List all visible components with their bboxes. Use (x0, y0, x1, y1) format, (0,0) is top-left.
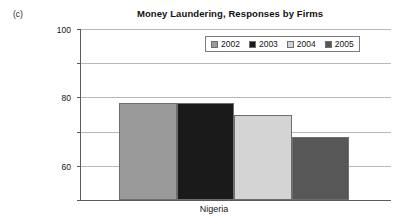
chart-title: Money Laundering, Responses by Firms (60, 8, 400, 19)
bar-2002 (119, 103, 177, 200)
legend-swatch-icon (325, 41, 332, 48)
legend-swatch-icon (211, 41, 218, 48)
legend-swatch-icon (249, 41, 256, 48)
y-axis-tick-label: 80 (62, 93, 71, 103)
legend-label: 2003 (259, 39, 278, 49)
y-axis-tick: 40 (77, 132, 81, 133)
legend: 2002200320042005 (205, 36, 360, 52)
bar-2003 (177, 103, 235, 200)
bar-2004 (234, 115, 292, 201)
y-axis-tick: 80 (77, 63, 81, 64)
panel-letter: (c) (13, 9, 23, 19)
y-axis-tick-label: 60 (62, 162, 71, 172)
legend-label: 2002 (221, 39, 240, 49)
y-axis-tick: 100 (77, 29, 81, 30)
legend-item-2002[interactable]: 2002 (211, 39, 240, 49)
y-axis-tick: 0 (77, 200, 81, 201)
legend-item-2004[interactable]: 2004 (287, 39, 316, 49)
bar-2005 (292, 137, 350, 200)
bar-group-nigeria (119, 29, 349, 200)
legend-swatch-icon (287, 41, 294, 48)
x-axis-tick-labels: Nigeria (80, 204, 390, 214)
y-axis-tick-label: 100 (57, 25, 71, 35)
legend-item-2003[interactable]: 2003 (249, 39, 278, 49)
plot-area: 020406080100 (80, 29, 391, 201)
chart-figure: (c) Money Laundering, Responses by Firms… (0, 0, 402, 224)
y-axis-tick: 60 (77, 97, 81, 98)
x-axis-tick-label-nigeria: Nigeria (80, 204, 348, 214)
legend-label: 2004 (297, 39, 316, 49)
legend-item-2005[interactable]: 2005 (325, 39, 354, 49)
y-axis-tick: 20 (77, 166, 81, 167)
legend-label: 2005 (335, 39, 354, 49)
